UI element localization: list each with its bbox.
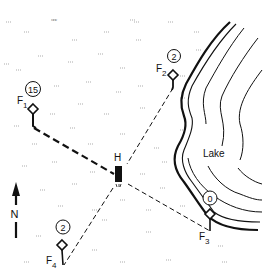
house-footprints-icon <box>116 184 121 187</box>
path-h-to-f1 <box>34 128 114 174</box>
lake-contour-2 <box>203 28 244 124</box>
north-arrow-icon <box>12 182 20 196</box>
map-diagram: ʷʷ Lake H 15 F1 <box>0 0 264 276</box>
path-h-to-f2 <box>127 88 173 164</box>
field-label-f3: F3 <box>199 231 210 246</box>
field-label-f2: F2 <box>156 63 167 78</box>
diamond-icon-f4 <box>57 240 67 250</box>
count-f3: 0 <box>207 194 212 204</box>
field-marker-f4: 2 F4 <box>46 220 70 270</box>
field-marker-f2: 2 F2 <box>156 50 181 91</box>
north-label: N <box>11 208 19 220</box>
lake-contour-4b <box>238 168 262 184</box>
field-stem-f2 <box>172 80 173 90</box>
diamond-icon-f1 <box>28 104 38 114</box>
diamond-icon-f2 <box>168 70 178 80</box>
field-label-f4: F4 <box>46 255 57 270</box>
field-label-f1: F1 <box>17 95 28 110</box>
north-arrow: N <box>11 182 21 238</box>
grass-marks <box>4 20 227 262</box>
lake-contour-4 <box>239 70 262 160</box>
field-stem-f4 <box>62 250 63 265</box>
count-f2: 2 <box>171 52 176 62</box>
field-marker-f3: 0 F3 <box>199 191 217 246</box>
house-label: H <box>114 152 121 163</box>
field-marker-f1: 15 F1 <box>17 82 41 129</box>
house-marker: H <box>114 152 122 187</box>
path-h-to-f4 <box>64 188 113 265</box>
lake-label: Lake <box>203 148 225 159</box>
field-stem-f1 <box>33 114 36 128</box>
count-f1: 15 <box>28 85 38 95</box>
count-f4: 2 <box>60 223 65 233</box>
path-h-to-f3 <box>128 184 210 231</box>
lake <box>175 22 262 230</box>
lake-contour-1 <box>182 24 260 222</box>
house-icon <box>115 166 122 182</box>
